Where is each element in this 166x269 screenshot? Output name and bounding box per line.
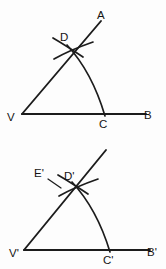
construction-figure: A D V C B E' D' V' C' B': [0, 0, 166, 269]
label-b-prime: B': [147, 246, 157, 258]
label-v: V: [7, 111, 15, 123]
label-c: C: [99, 118, 107, 130]
copied-angle-panel: E' D' V' C' B': [9, 150, 157, 266]
given-angle-panel: A D V C B: [7, 9, 152, 130]
label-e-prime: E': [34, 167, 44, 179]
main-arc-dpcp: [72, 182, 110, 252]
label-d-prime: D': [64, 170, 75, 182]
label-c-prime: C': [103, 254, 114, 266]
label-d: D: [60, 31, 68, 43]
label-a: A: [97, 9, 105, 21]
e-prime-leader-line: [48, 179, 61, 188]
geometry-construction-svg: A D V C B E' D' V' C' B': [0, 0, 166, 269]
label-v-prime: V': [9, 247, 19, 259]
label-b: B: [144, 109, 152, 121]
upper-ray-vp: [24, 150, 106, 250]
